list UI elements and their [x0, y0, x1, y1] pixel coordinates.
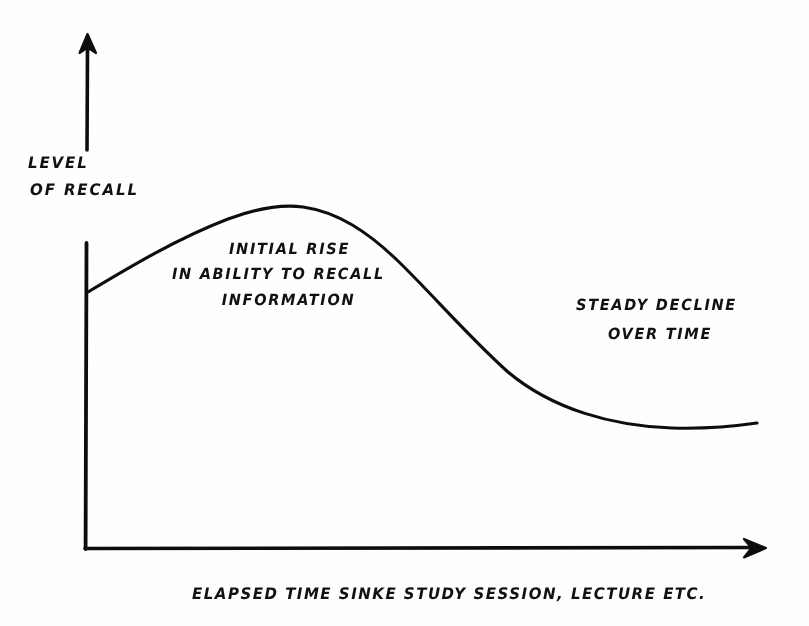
annotation-initial-rise-line-1: INITIAL RISE: [194, 238, 385, 261]
x-axis-line: [85, 548, 752, 549]
annotation-steady-decline-line-1: STEADY DECLINE: [576, 295, 737, 318]
y-axis-label-line-2: OF RECALL: [30, 178, 139, 202]
x-axis-label: ELAPSED TIME SINKE STUDY SESSION, LECTUR…: [192, 582, 706, 606]
annotation-initial-rise-line-3: INFORMATION: [192, 289, 385, 312]
y-axis-label-line-1: LEVEL: [28, 151, 139, 175]
recall-curve-figure: LEVEL OF RECALL INITIAL RISE IN ABILITY …: [0, 0, 809, 626]
y-axis-upper-segment: [87, 47, 88, 150]
annotation-initial-rise: INITIAL RISE IN ABILITY TO RECALL INFORM…: [172, 238, 385, 312]
annotation-steady-decline-line-2: OVER TIME: [608, 323, 737, 346]
y-axis-label: LEVEL OF RECALL: [28, 151, 139, 203]
y-axis-lower-segment: [86, 243, 87, 549]
annotation-steady-decline: STEADY DECLINE OVER TIME: [576, 295, 737, 347]
annotation-initial-rise-line-2: IN ABILITY TO RECALL: [172, 263, 385, 286]
